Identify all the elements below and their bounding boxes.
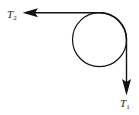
label-t1: T1: [120, 97, 130, 111]
diagram-canvas: T2 T1: [0, 0, 139, 115]
pulley-diagram: T2 T1: [0, 0, 139, 115]
label-t2: T2: [7, 8, 17, 22]
rope-wrap: [100, 13, 127, 40]
